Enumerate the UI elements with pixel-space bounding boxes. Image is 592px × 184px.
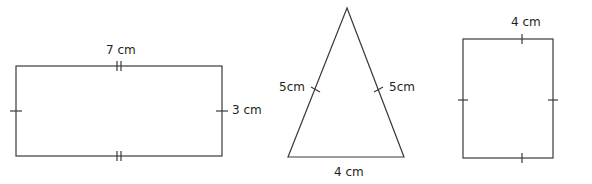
shapes-diagram: 7 cm 3 cm 5cm 5cm 4 cm 4 cm: [0, 0, 592, 184]
square-side-label: 4 cm: [511, 16, 541, 28]
rectangle-shape: [16, 66, 222, 156]
triangle-right-side-label: 5cm: [389, 81, 415, 93]
rectangle-width-label: 3 cm: [232, 104, 262, 116]
triangle-left-side-label: 5cm: [279, 81, 305, 93]
square-shape: [463, 39, 553, 158]
rectangle-length-label: 7 cm: [106, 44, 136, 56]
triangle-base-label: 4 cm: [334, 166, 364, 178]
triangle-shape: [288, 8, 404, 157]
